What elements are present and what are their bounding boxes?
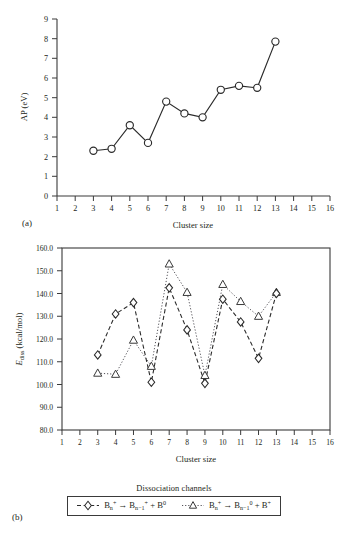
svg-text:8: 8 — [44, 35, 48, 44]
panel-b-diamond-datapoint — [94, 351, 101, 359]
legend-t-product2-sup: + — [267, 500, 270, 506]
svg-text:1: 1 — [44, 172, 48, 181]
legend-label-diamond: Bn+→Bn−1+ + B0 — [104, 500, 166, 511]
svg-text:9: 9 — [44, 15, 48, 24]
svg-text:150.0: 150.0 — [36, 267, 53, 276]
panel-a-x-ticklabels: 1 2 3 4 5 6 7 8 9 10 11 12 13 14 15 16 — [55, 204, 334, 213]
legend-d-product1-sub: n−1 — [135, 505, 145, 511]
panel-b-triangle-datapoint — [219, 280, 227, 287]
legend-d-product1-sup: + — [145, 500, 148, 506]
panel-b-x-ticks — [62, 430, 330, 435]
panel-a-y-axis-title: AP (eV) — [19, 93, 29, 122]
svg-text:3: 3 — [96, 438, 100, 447]
legend-label-triangle: Bn+→Bn−10 + B+ — [209, 500, 271, 511]
panel-a-markers — [90, 38, 279, 154]
svg-text:5: 5 — [44, 94, 48, 103]
legend-t-arrow: → — [221, 500, 234, 510]
svg-text:12: 12 — [255, 438, 263, 447]
panel-b-y-ticklabels: 160.0 150.0 140.0 130.0 120.0 110.0 100.… — [36, 244, 53, 435]
svg-text:0: 0 — [44, 192, 48, 201]
panel-a-datapoint — [235, 82, 242, 89]
panel-b-frame — [62, 248, 330, 430]
panel-b-diamond-datapoint — [202, 379, 209, 387]
svg-text:4: 4 — [44, 113, 48, 122]
svg-text:6: 6 — [149, 438, 153, 447]
svg-text:160.0: 160.0 — [36, 244, 53, 253]
svg-text:80.0: 80.0 — [40, 426, 53, 435]
svg-text:6: 6 — [44, 74, 48, 83]
panel-a-datapoint — [217, 86, 224, 93]
svg-text:120.0: 120.0 — [36, 335, 53, 344]
legend-d-arrow: → — [116, 500, 129, 510]
panel-a-datapoint — [163, 98, 170, 105]
svg-text:110.0: 110.0 — [36, 358, 53, 367]
panel-a-datapoint — [126, 122, 133, 129]
svg-text:8: 8 — [182, 204, 186, 213]
legend-item-diamond[interactable]: Bn+→Bn−1+ + B0 — [77, 500, 166, 511]
svg-text:12: 12 — [253, 204, 261, 213]
svg-text:10: 10 — [217, 204, 225, 213]
legend-d-product2-sup: 0 — [163, 500, 166, 506]
panel-a-datapoint — [144, 139, 151, 146]
legend-diamond-icon — [77, 500, 99, 511]
svg-text:100.0: 100.0 — [36, 381, 53, 390]
panel-b-y-axis-title: Ediss (kcal/mol) — [14, 312, 25, 366]
panel-b-diamond-datapoint — [166, 284, 173, 292]
panel-a-datapoint — [181, 110, 188, 117]
svg-text:4: 4 — [114, 438, 118, 447]
svg-text:6: 6 — [146, 204, 150, 213]
svg-text:15: 15 — [308, 204, 316, 213]
svg-text:130.0: 130.0 — [36, 312, 53, 321]
panel-a-datapoint — [90, 147, 97, 154]
panel-b-triangle-datapoint — [94, 369, 102, 376]
svg-text:7: 7 — [44, 54, 48, 63]
svg-text:10: 10 — [219, 438, 227, 447]
legend-container: Dissociation channels Bn+→Bn−1+ + B0 Bn+… — [0, 484, 348, 516]
svg-text:4: 4 — [110, 204, 114, 213]
svg-text:2: 2 — [44, 153, 48, 162]
svg-text:16: 16 — [326, 204, 334, 213]
legend-item-triangle[interactable]: Bn+→Bn−10 + B+ — [182, 500, 271, 511]
legend-triangle-icon — [182, 500, 204, 511]
panel-b-diamond-datapoint — [255, 354, 262, 362]
svg-text:140.0: 140.0 — [36, 290, 53, 299]
legend-box: Bn+→Bn−1+ + B0 Bn+→Bn−10 + B+ — [67, 496, 281, 516]
panel-b-triangle-datapoint — [237, 297, 245, 304]
panel-b-diamond-datapoint — [112, 310, 119, 318]
svg-text:2: 2 — [73, 204, 77, 213]
svg-text:5: 5 — [132, 438, 136, 447]
svg-text:16: 16 — [326, 438, 334, 447]
svg-text:90.0: 90.0 — [40, 403, 53, 412]
panel-a-datapoint — [254, 84, 261, 91]
panel-b-diamond-datapoint — [148, 378, 155, 386]
panel-a-plot: 9 8 7 6 5 4 3 2 1 0 — [0, 0, 348, 240]
svg-text:11: 11 — [235, 204, 243, 213]
legend-t-plus: + — [255, 500, 260, 510]
svg-text:9: 9 — [201, 204, 205, 213]
panel-a-datapoint — [272, 38, 279, 45]
svg-text:2: 2 — [78, 438, 82, 447]
panel-b-triangle-series-line — [98, 264, 277, 375]
svg-text:14: 14 — [290, 438, 298, 447]
panel-a-tag: (a) — [22, 218, 32, 228]
panel-a-x-ticks — [57, 196, 330, 201]
legend-d-plus: + — [150, 500, 155, 510]
panel-b-diamond-datapoint — [184, 326, 191, 334]
panel-a-datapoint — [199, 114, 206, 121]
panel-a-y-ticks — [52, 19, 57, 196]
panel-a: 9 8 7 6 5 4 3 2 1 0 — [0, 0, 348, 240]
legend-t-product1-sup: 0 — [249, 500, 252, 506]
svg-text:11: 11 — [237, 438, 245, 447]
panel-a-x-axis-title: Cluster size — [173, 220, 214, 230]
panel-b-triangle-datapoint — [165, 260, 173, 267]
panel-a-datapoint — [108, 145, 115, 152]
figure-container: 9 8 7 6 5 4 3 2 1 0 — [0, 0, 348, 545]
panel-b-diamond-series-line — [98, 288, 277, 384]
panel-b-diamond-datapoint — [273, 289, 280, 297]
svg-text:13: 13 — [271, 204, 279, 213]
svg-text:14: 14 — [290, 204, 298, 213]
svg-text:1: 1 — [60, 438, 64, 447]
panel-b-triangle-datapoint — [129, 336, 137, 343]
svg-text:7: 7 — [167, 438, 171, 447]
panel-b-x-ticklabels: 1 2 3 4 5 6 7 8 9 10 11 12 13 14 15 16 — [60, 438, 334, 447]
